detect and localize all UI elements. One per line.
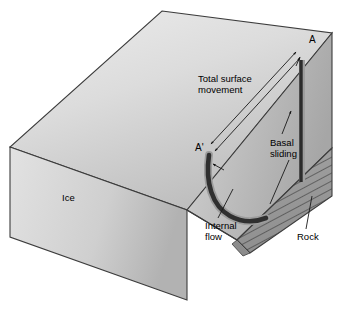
label-ice: Ice <box>62 192 75 203</box>
label-rock: Rock <box>297 231 319 242</box>
figure-canvas: Ice Total surface movement Basal sliding… <box>0 0 343 311</box>
label-total-surface-movement: Total surface movement <box>198 73 252 95</box>
label-internal-flow: Internal flow <box>205 220 237 242</box>
label-marker-a: A <box>309 34 316 45</box>
marker-bar-a <box>301 60 302 182</box>
label-marker-a-prime: A' <box>195 142 204 153</box>
label-basal-sliding: Basal sliding <box>270 137 297 159</box>
